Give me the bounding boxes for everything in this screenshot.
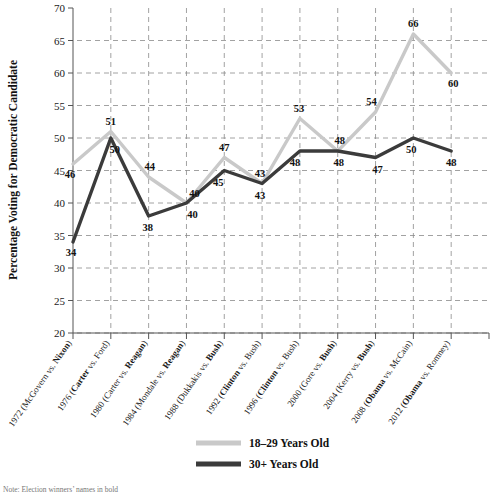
x-label-winner: Clinton	[255, 368, 280, 398]
legend-label-young: 18–29 Years Old	[249, 437, 330, 449]
x-label-pre: 1980 (Carter vs.	[88, 365, 131, 420]
figure-note: Note: Election winners’ names in bold	[3, 485, 118, 494]
data-label: 54	[366, 96, 377, 107]
x-label-pre: 1972 (McGovern vs.	[6, 360, 58, 429]
y-axis-title: Percentage Voting for Democratic Candida…	[7, 60, 20, 280]
data-label: 43	[255, 190, 266, 201]
data-label: 48	[446, 157, 457, 168]
x-axis-category-labels: 1972 (McGovern vs. Nixon)1976 (Carter vs…	[6, 338, 451, 428]
data-label: 40	[189, 188, 200, 199]
x-label-post: vs. McCain)	[379, 338, 414, 382]
x-label-winner: Reagan	[161, 341, 186, 370]
data-label: 47	[372, 164, 383, 175]
data-label: 44	[144, 161, 155, 172]
data-label: 48	[333, 157, 344, 168]
x-label-winner: Reagan	[123, 341, 148, 370]
data-label: 50	[110, 144, 121, 155]
x-category-label: 1972 (McGovern vs. Nixon)	[6, 338, 73, 428]
x-label-winner: Clinton	[217, 368, 242, 398]
y-tick-label: 25	[54, 295, 66, 307]
x-label-post: vs. Bush)	[234, 338, 263, 373]
chart-figure: 2025303540455055606570 46514440474353485…	[0, 0, 494, 498]
data-label: 47	[219, 142, 230, 153]
x-label-post: vs. Bush)	[272, 338, 301, 373]
y-tick-label: 30	[54, 262, 66, 274]
data-label: 51	[106, 116, 117, 127]
line-chart-svg: 2025303540455055606570 46514440474353485…	[0, 0, 494, 498]
data-label: 66	[408, 18, 419, 29]
x-label-pre: 2000 (Gore vs.	[285, 357, 325, 409]
x-label-post: vs. Romney)	[416, 338, 452, 383]
y-tick-label: 35	[54, 230, 66, 242]
data-label: 40	[187, 209, 198, 220]
x-category-label: 1984 (Mondale vs. Reagan)	[120, 338, 187, 427]
y-tick-label: 40	[54, 197, 66, 209]
data-label: 45	[213, 177, 224, 188]
data-label: 60	[448, 78, 459, 89]
y-tick-label: 55	[54, 100, 66, 112]
y-tick-label: 65	[54, 35, 66, 47]
data-label: 43	[255, 168, 266, 179]
x-label-post: vs. Ford)	[83, 338, 111, 372]
gridlines	[77, 8, 489, 333]
y-tick-label: 50	[54, 132, 66, 144]
data-label: 48	[334, 135, 345, 146]
x-label-pre: 2004 (Kerry vs.	[321, 357, 363, 411]
y-tick-label: 20	[54, 327, 66, 339]
chart-legend: 18–29 Years Old30+ Years Old	[196, 437, 330, 470]
x-axis-ticks	[73, 333, 489, 339]
data-label: 38	[142, 222, 153, 233]
y-tick-label: 60	[54, 67, 66, 79]
data-label: 46	[65, 169, 76, 180]
data-label: 53	[294, 103, 305, 114]
y-tick-label: 70	[54, 2, 66, 14]
data-label: 34	[66, 247, 77, 258]
legend-label-older: 30+ Years Old	[249, 458, 319, 470]
data-label: 48	[290, 157, 301, 168]
data-label: 50	[406, 144, 417, 155]
